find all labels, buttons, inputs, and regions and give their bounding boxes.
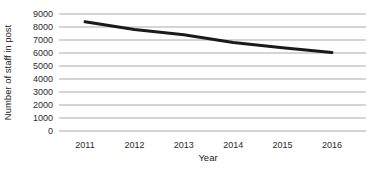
y-tick-label-0: 0 xyxy=(48,126,53,136)
y-tick-label-2000: 2000 xyxy=(33,100,53,110)
x-tick-label-2016: 2016 xyxy=(322,140,342,150)
y-tick-label-6000: 6000 xyxy=(33,48,53,58)
gridlines xyxy=(59,14,366,131)
x-axis-title: Year xyxy=(198,152,217,163)
y-axis-title: Number of staff in post xyxy=(2,24,13,120)
y-tick-label-8000: 8000 xyxy=(33,22,53,32)
x-axis-tick-labels: 201120122013201420152016 xyxy=(75,140,342,150)
x-tick-label-2011: 2011 xyxy=(75,140,94,150)
staff-trend-line xyxy=(85,22,332,53)
x-tick-label-2015: 2015 xyxy=(273,140,293,150)
y-tick-label-5000: 5000 xyxy=(33,61,53,71)
staff-in-post-line-chart: 0100020003000400050006000700080009000 20… xyxy=(0,0,372,169)
y-tick-label-4000: 4000 xyxy=(33,74,53,84)
y-tick-label-9000: 9000 xyxy=(33,9,53,19)
y-tick-label-1000: 1000 xyxy=(33,113,53,123)
x-tick-label-2012: 2012 xyxy=(124,140,144,150)
y-tick-label-7000: 7000 xyxy=(33,35,53,45)
y-tick-label-3000: 3000 xyxy=(33,87,53,97)
x-tick-label-2013: 2013 xyxy=(174,140,194,150)
chart-canvas: 0100020003000400050006000700080009000 20… xyxy=(0,0,372,169)
x-tick-label-2014: 2014 xyxy=(223,140,243,150)
y-axis-tick-labels: 0100020003000400050006000700080009000 xyxy=(33,9,53,136)
